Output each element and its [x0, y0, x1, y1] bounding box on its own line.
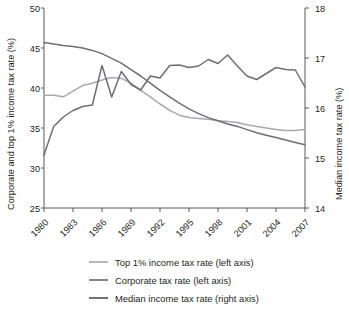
right-tick-15: 15: [315, 154, 325, 164]
left-axis-title: Corporate and top 1% income tax rate (%): [6, 38, 16, 210]
left-tick-50: 50: [30, 4, 40, 14]
left-tick-30: 30: [30, 164, 40, 174]
chart-figure: Corporate and top 1% income tax rate (%)…: [0, 0, 349, 315]
x-tick-label-1992: 1992: [145, 217, 167, 239]
legend-label-top1: Top 1% income tax rate (left axis): [115, 257, 254, 268]
x-tick-label-2001: 2001: [232, 217, 254, 239]
right-tick-16: 16: [315, 104, 325, 114]
right-tick-labels: 18 17 16 15 14: [315, 4, 325, 214]
left-tick-25: 25: [30, 204, 40, 214]
x-tick-label-1989: 1989: [116, 217, 138, 239]
line-chart: Corporate and top 1% income tax rate (%)…: [0, 0, 349, 315]
x-tick-label-1983: 1983: [58, 217, 80, 239]
legend-label-corporate: Corporate tax rate (left axis): [115, 275, 231, 286]
right-tick-18: 18: [315, 4, 325, 14]
x-tick-label-1998: 1998: [203, 217, 225, 239]
series-median-income-tax-rate-right-axis: [44, 55, 305, 155]
legend-label-median: Median income tax rate (right axis): [115, 293, 259, 304]
right-axis-title: Median income tax rate (%): [334, 88, 344, 200]
x-tick-label-2004: 2004: [261, 217, 283, 239]
left-tick-40: 40: [30, 84, 40, 94]
right-tick-marks: [305, 8, 309, 208]
x-tick-label-1980: 1980: [29, 217, 51, 239]
left-tick-45: 45: [30, 44, 40, 54]
x-tick-marks: 1980198319861989199219951998200120042007: [29, 208, 312, 239]
x-tick-label-1986: 1986: [87, 217, 109, 239]
series-top-1-income-tax-rate-left-axis: [44, 78, 305, 131]
series-lines: [44, 42, 305, 155]
right-tick-14: 14: [315, 204, 325, 214]
left-tick-35: 35: [30, 124, 40, 134]
x-tick-label-2007: 2007: [290, 217, 312, 239]
x-tick-label-1995: 1995: [174, 217, 196, 239]
chart-legend: Top 1% income tax rate (left axis) Corpo…: [89, 257, 259, 304]
right-tick-17: 17: [315, 54, 325, 64]
left-tick-labels: 50 45 40 35 30 25: [30, 4, 40, 214]
series-corporate-tax-rate-left-axis: [44, 42, 305, 144]
